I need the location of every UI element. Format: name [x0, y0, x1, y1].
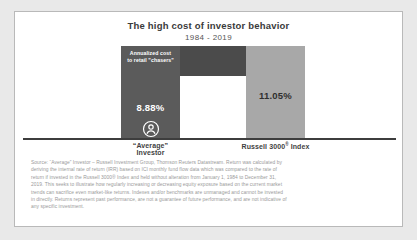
axis-label-russell-3000-text: Russell 3000	[242, 143, 286, 150]
footnote-line-5: trends can sacrifice even market-like re…	[31, 189, 391, 196]
bar-average-investor: 8.88%	[121, 76, 180, 138]
bar-value-russell-3000: 11.05%	[246, 90, 305, 101]
bar-russell-3000: 11.05%	[246, 46, 305, 138]
axis-label-russell-3000: Russell 3000® Index	[236, 142, 315, 150]
footnote-line-2: deriving the internal rate of return (IR…	[31, 166, 391, 173]
chart-axis-line	[23, 138, 396, 140]
chart-card: The high cost of investor behavior 1984 …	[14, 11, 403, 227]
source-footnote: Source: “Average” Investor – Russell Inv…	[31, 159, 391, 211]
annotation-label-line1: Annualized cost	[130, 50, 171, 56]
footnote-line-6: in directly. Returns represent past perf…	[31, 196, 391, 203]
title-block: The high cost of investor behavior 1984 …	[15, 20, 402, 43]
axis-label-average-investor: “Average” Investor	[121, 142, 180, 156]
page-title: The high cost of investor behavior	[15, 20, 402, 32]
axis-label-average-investor-text: “Average” Investor	[133, 142, 168, 156]
axis-label-russell-3000-tail: Index	[289, 143, 310, 150]
footnote-line-4: 2019. This seeks to illustrate how regul…	[31, 181, 391, 188]
annotation-label: Annualized cost to retail "chasers"	[121, 46, 180, 76]
footnote-line-7: any specific investment.	[31, 203, 391, 210]
chart-plot-area: Annualized cost to retail "chasers" 8.88…	[15, 46, 404, 138]
chart-subtitle: 1984 - 2019	[15, 32, 402, 43]
footnote-line-3: return if invested in the Russell 3000® …	[31, 174, 391, 181]
bar-value-average-investor: 8.88%	[121, 102, 180, 113]
footnote-line-1: Source: “Average” Investor – Russell Inv…	[31, 159, 391, 166]
annotation-label-line2: to retail "chasers"	[127, 57, 174, 63]
